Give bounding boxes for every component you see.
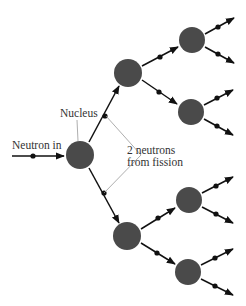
nucleus-leader-line — [77, 120, 78, 141]
fission-chain-diagram: Neutron in Nucleus 2 neutrons from fissi… — [0, 0, 246, 306]
nucleus-gen1 — [66, 141, 94, 169]
neutron-dot — [30, 153, 35, 158]
neutron-arrow — [141, 208, 175, 229]
nucleus-gen3-1 — [179, 27, 205, 53]
two-neutrons-label-line2: from fission — [127, 156, 183, 168]
fission-neutron-arrow-lower — [89, 168, 119, 223]
nucleus-gen3-4 — [175, 259, 201, 285]
neutron-arrow — [142, 80, 177, 104]
nucleus-label: Nucleus — [60, 107, 98, 119]
nucleus-gen3-2 — [178, 99, 204, 125]
nucleus-gen3-3 — [176, 187, 202, 213]
outgoing-neutron-arrows — [201, 18, 234, 295]
neutron-arrow — [141, 243, 175, 264]
two-neutrons-label-line1: 2 neutrons — [127, 144, 176, 156]
nucleus-gen2-upper — [114, 59, 142, 87]
neutron-in-label: Neutron in — [12, 139, 62, 151]
neutron-arrow — [142, 47, 178, 66]
neutron-dot — [102, 113, 107, 118]
incoming-neutron-arrow — [12, 153, 64, 158]
nucleus-gen2-lower — [113, 222, 141, 250]
